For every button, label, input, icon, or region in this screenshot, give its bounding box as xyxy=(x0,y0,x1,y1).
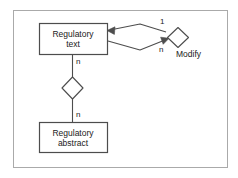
cardinality-vertical-bottom: n xyxy=(76,110,80,119)
diagram-canvas: Regulatory text Regulatory abstract Modi… xyxy=(0,0,238,178)
er-diagram-graphic xyxy=(0,0,238,178)
entity-box-regulatory-abstract xyxy=(40,123,108,153)
cardinality-modify-many: n xyxy=(159,45,163,54)
cardinality-vertical-top: n xyxy=(76,57,80,66)
cardinality-modify-one: 1 xyxy=(160,17,164,26)
entity-box-regulatory-text xyxy=(40,24,108,55)
relationship-label-modify: Modify xyxy=(176,49,201,59)
